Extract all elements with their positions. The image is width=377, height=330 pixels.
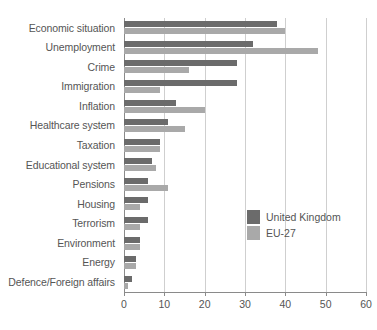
legend-swatch <box>247 210 260 224</box>
x-axis: 0102030405060 <box>124 292 366 316</box>
x-tick-mark <box>245 292 246 296</box>
category-label: Energy <box>0 253 120 273</box>
bar-eu <box>124 28 285 34</box>
bar-eu <box>124 48 318 54</box>
legend-item: United Kingdom <box>247 210 341 224</box>
bar-eu <box>124 107 205 113</box>
bar-uk <box>124 100 176 106</box>
x-tick-mark <box>285 292 286 296</box>
bar-eu <box>124 126 185 132</box>
bar-eu <box>124 165 156 171</box>
bar-group <box>124 18 366 38</box>
bar-eu <box>124 185 168 191</box>
bar-uk <box>124 256 136 262</box>
bar-uk <box>124 178 148 184</box>
x-tick-label: 0 <box>121 298 127 310</box>
bar-uk <box>124 197 148 203</box>
x-tick-mark <box>124 292 125 296</box>
x-tick-label: 30 <box>239 298 251 310</box>
x-tick-label: 10 <box>158 298 170 310</box>
bar-uk <box>124 139 160 145</box>
bar-uk <box>124 158 152 164</box>
bar-group <box>124 253 366 273</box>
bar-uk <box>124 276 132 282</box>
bar-eu <box>124 204 140 210</box>
bar-eu <box>124 244 140 250</box>
category-label: Pensions <box>0 175 120 195</box>
bar-uk <box>124 41 253 47</box>
chart-legend: United KingdomEU-27 <box>247 210 341 240</box>
x-tick-mark <box>164 292 165 296</box>
category-label: Educational system <box>0 155 120 175</box>
bar-eu <box>124 224 140 230</box>
category-label: Economic situation <box>0 18 120 38</box>
category-label: Taxation <box>0 135 120 155</box>
category-label: Immigration <box>0 77 120 97</box>
bar-group <box>124 135 366 155</box>
bar-group <box>124 38 366 58</box>
category-label: Inflation <box>0 96 120 116</box>
x-tick-label: 40 <box>279 298 291 310</box>
x-tick-mark <box>326 292 327 296</box>
bar-uk <box>124 60 237 66</box>
plot-area <box>124 18 366 292</box>
bar-group <box>124 96 366 116</box>
x-tick-label: 60 <box>360 298 372 310</box>
bars-layer <box>124 18 366 292</box>
category-axis: Economic situationUnemploymentCrimeImmig… <box>0 18 120 292</box>
bar-group <box>124 175 366 195</box>
category-label: Defence/Foreign affairs <box>0 273 120 293</box>
bar-eu <box>124 87 160 93</box>
x-tick-mark <box>366 292 367 296</box>
bar-uk <box>124 119 168 125</box>
x-tick-label: 20 <box>199 298 211 310</box>
legend-item: EU-27 <box>247 226 341 240</box>
category-label: Environment <box>0 233 120 253</box>
bar-group <box>124 77 366 97</box>
bar-uk <box>124 217 148 223</box>
bar-group <box>124 57 366 77</box>
category-label: Housing <box>0 194 120 214</box>
bar-eu <box>124 263 136 269</box>
bar-eu <box>124 283 128 289</box>
bar-eu <box>124 146 160 152</box>
bar-group <box>124 273 366 293</box>
bar-chart: Economic situationUnemploymentCrimeImmig… <box>0 0 377 330</box>
x-tick-label: 50 <box>320 298 332 310</box>
bar-uk <box>124 80 237 86</box>
category-label: Crime <box>0 57 120 77</box>
bar-group <box>124 116 366 136</box>
legend-label: United Kingdom <box>266 211 341 223</box>
legend-swatch <box>247 226 260 240</box>
category-label: Terrorism <box>0 214 120 234</box>
legend-label: EU-27 <box>266 227 296 239</box>
bar-uk <box>124 21 277 27</box>
bar-uk <box>124 237 140 243</box>
gridline <box>366 18 367 292</box>
category-label: Unemployment <box>0 38 120 58</box>
bar-eu <box>124 67 189 73</box>
category-label: Healthcare system <box>0 116 120 136</box>
x-tick-mark <box>205 292 206 296</box>
bar-group <box>124 155 366 175</box>
